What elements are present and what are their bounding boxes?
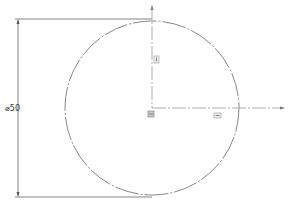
arrow-bottom-icon (17, 192, 20, 197)
horizontal-constraint-icon[interactable] (214, 113, 221, 118)
arrow-top-icon (17, 19, 20, 24)
vertical-axis-arrow-icon (151, 5, 154, 10)
vertical-constraint-icon[interactable] (154, 56, 159, 63)
horizontal-axis-arrow-icon (280, 107, 285, 110)
origin-icon[interactable] (148, 111, 154, 117)
diameter-dimension-label[interactable]: ⌀50 (5, 104, 20, 113)
sketch-canvas[interactable] (0, 0, 294, 207)
